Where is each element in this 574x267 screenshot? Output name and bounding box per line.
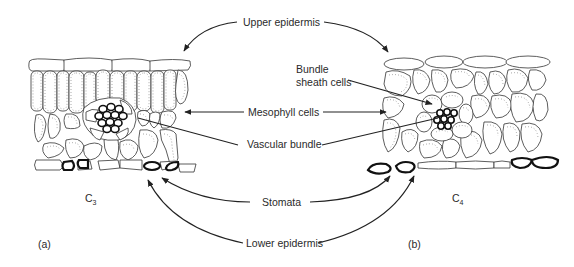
label-bundle-sheath-line2: sheath cells [296,76,351,88]
label-upper-epidermis: Upper epidermis [243,16,320,28]
upper-epidermis-arrow-left [184,22,237,51]
c3-upper-epidermis [29,58,191,71]
label-mesophyll: Mesophyll cells [248,106,319,118]
leaf-anatomy-diagram: Upper epidermis Bundle sheath cells Meso… [0,0,574,267]
label-c4: C4 [452,192,464,209]
c4-lower-epidermis [418,161,510,169]
c3-subscript: 3 [93,199,97,206]
lower-epidermis-arrow-right [318,176,414,243]
label-stomata: Stomata [262,196,301,208]
label-vascular-bundle: Vascular bundle [247,138,322,150]
panel-label-a: (a) [38,238,51,250]
label-lower-epidermis: Lower epidermis [246,237,323,249]
label-bundle-sheath-line1: Bundle [296,63,329,75]
panel-label-b: (b) [408,238,421,250]
c4-subscript: 4 [460,199,464,206]
c3-vascular-bundle [83,98,136,141]
c3-leaf-section [29,58,196,172]
stomata-arrow-right [310,176,390,202]
diagram-svg [0,0,574,267]
c4-upper-epidermis [384,56,550,70]
c4-letter: C [452,192,460,204]
label-c3: C3 [85,192,97,209]
c3-letter: C [85,192,93,204]
upper-epidermis-arrow-right [324,22,388,52]
lower-epidermis-arrow-left [148,180,243,243]
stomata-arrow-left [162,178,250,202]
c4-leaf-section [368,56,558,174]
